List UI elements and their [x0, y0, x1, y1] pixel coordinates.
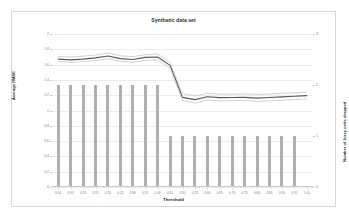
y-axis-tick-label-left: 0.6: [31, 139, 49, 143]
y-axis-tickmark-right: [313, 136, 315, 137]
y-axis-tick-label-left: 0.8: [31, 124, 49, 128]
y-axis-tick-label-right: 1: [316, 134, 330, 138]
line-series: [52, 34, 313, 187]
x-axis-title: Threshold: [12, 197, 335, 202]
y-axis-title-right: Number of fuzzy units dropped: [342, 102, 347, 162]
y-axis-tick-label-left: 1.2: [31, 93, 49, 97]
y-axis-tick-label-right: 3: [316, 32, 330, 36]
y-axis-tick-label-left: 1: [31, 109, 49, 113]
x-axis-tick-label: 1.00: [299, 191, 315, 195]
gridline: [52, 187, 313, 188]
y-axis-tick-label-left: 0.2: [31, 170, 49, 174]
plot-area: [52, 34, 313, 187]
y-axis-tickmark-right: [313, 187, 315, 188]
y-axis-tick-label-right: 2: [316, 83, 330, 87]
chart-frame: Synthetic data set Average RMSE Number o…: [11, 11, 336, 207]
y-axis-title-left: Average RMSE: [11, 71, 16, 100]
y-axis-tick-label-left: 1.4: [31, 78, 49, 82]
y-axis-tickmark-right: [313, 85, 315, 86]
x-axis-line: [52, 186, 313, 187]
chart-title: Synthetic data set: [12, 17, 335, 23]
y-axis-tick-label-left: 0: [31, 185, 49, 189]
line-path: [58, 53, 307, 96]
y-axis-tick-label-left: 1.8: [31, 47, 49, 51]
y-axis-tick-label-left: 0.4: [31, 154, 49, 158]
y-axis-tickmark-right: [313, 34, 315, 35]
y-axis-tick-label-right: 0: [316, 185, 330, 189]
y-axis-tick-label-left: 1.6: [31, 63, 49, 67]
y-axis-tick-label-left: 2: [31, 32, 49, 36]
